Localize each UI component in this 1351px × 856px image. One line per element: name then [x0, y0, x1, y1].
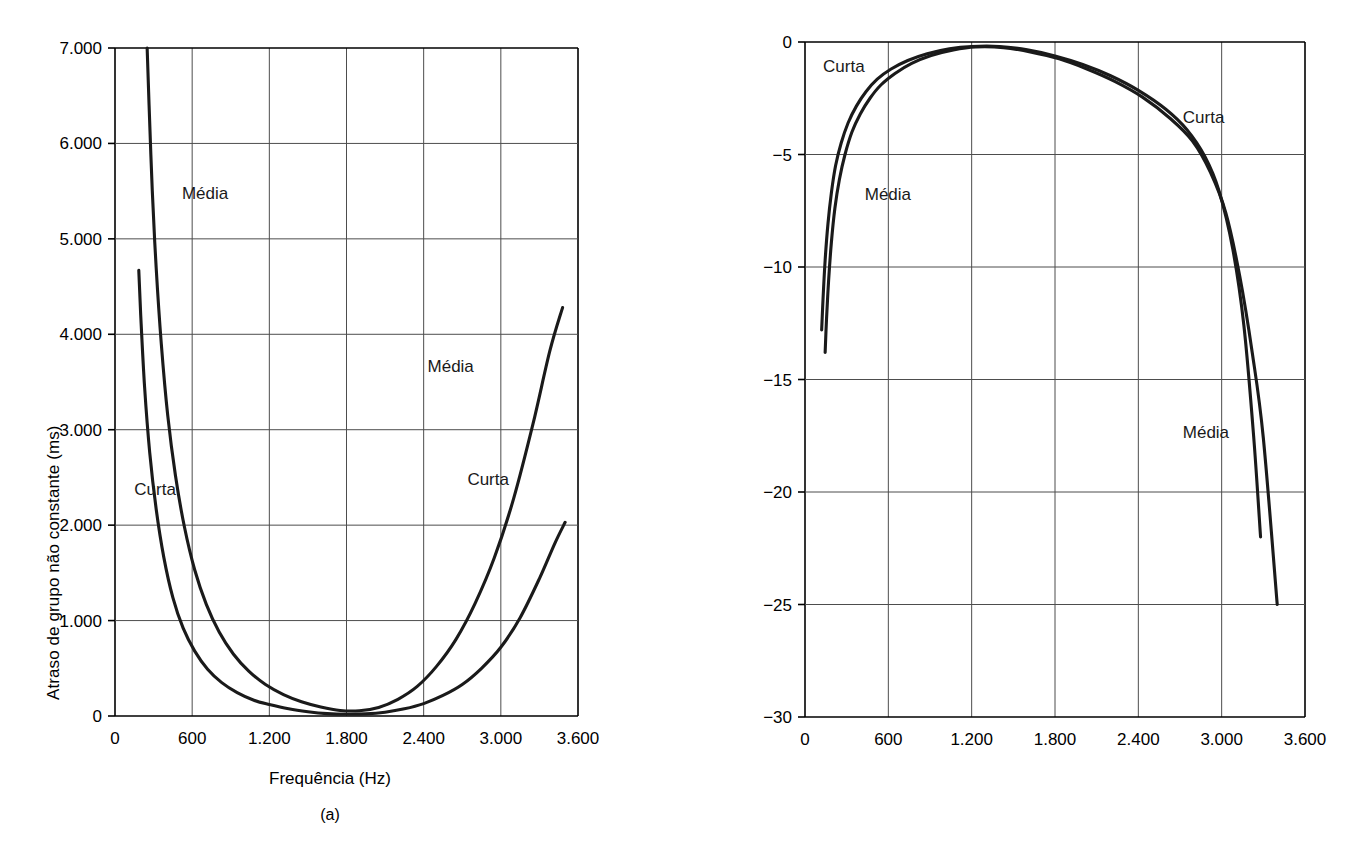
curve-annotation-curta: Curta	[134, 480, 176, 499]
series-curve-mdia	[147, 48, 562, 711]
x-tick-label: 0	[800, 730, 809, 749]
y-axis-label-a-text: Atraso de grupo não constante (ms)	[44, 425, 63, 700]
plot-b-svg: −30−25−20−15−10−5006001.2001.8002.4003.0…	[680, 0, 1351, 800]
y-tick-label: 4.000	[59, 325, 102, 344]
plot-a-svg: 01.0002.0003.0004.0005.0006.0007.0000600…	[0, 0, 680, 800]
x-tick-label: 2.400	[402, 729, 445, 748]
curve-annotation-mdia: Média	[865, 185, 912, 204]
y-tick-label: −25	[763, 596, 792, 615]
y-tick-label: −20	[763, 483, 792, 502]
x-tick-label: 3.600	[1284, 730, 1327, 749]
x-tick-label: 1.800	[1034, 730, 1077, 749]
y-axis-label-a: Atraso de grupo não constante (ms)	[44, 425, 64, 700]
x-axis-label-a: Frequência (Hz)	[0, 769, 660, 789]
y-tick-label: 2.000	[59, 516, 102, 535]
x-tick-label: 3.600	[557, 729, 600, 748]
y-tick-label: −15	[763, 371, 792, 390]
curve-annotation-curta: Curta	[823, 57, 865, 76]
chart-panel-a: 01.0002.0003.0004.0005.0006.0007.0000600…	[0, 0, 680, 856]
y-tick-label: −5	[773, 146, 792, 165]
curve-annotation-mdia: Média	[182, 184, 229, 203]
y-tick-label: 1.000	[59, 612, 102, 631]
figure-container: 01.0002.0003.0004.0005.0006.0007.0000600…	[0, 0, 1351, 856]
figure-caption	[54, 848, 1314, 856]
y-tick-label: 7.000	[59, 39, 102, 58]
y-tick-label: −10	[763, 258, 792, 277]
x-tick-label: 2.400	[1117, 730, 1160, 749]
x-tick-label: 600	[178, 729, 206, 748]
y-tick-label: 6.000	[59, 134, 102, 153]
y-tick-label: 0	[783, 33, 792, 52]
x-tick-label: 0	[110, 729, 119, 748]
curve-annotation-curta: Curta	[1183, 108, 1225, 127]
x-tick-label: 1.200	[950, 730, 993, 749]
x-tick-label: 3.000	[1200, 730, 1243, 749]
y-tick-label: 3.000	[59, 421, 102, 440]
y-tick-label: 5.000	[59, 230, 102, 249]
curve-annotation-mdia: Média	[1183, 423, 1230, 442]
x-tick-label: 1.200	[248, 729, 291, 748]
x-tick-label: 1.800	[325, 729, 368, 748]
subcaption-a: (a)	[0, 806, 660, 824]
y-tick-label: −30	[763, 708, 792, 727]
curve-annotation-curta: Curta	[467, 470, 509, 489]
series-curve-mdia	[825, 47, 1277, 605]
chart-panel-b: −30−25−20−15−10−5006001.2001.8002.4003.0…	[680, 0, 1351, 856]
y-tick-label: 0	[93, 707, 102, 726]
x-tick-label: 3.000	[480, 729, 523, 748]
x-tick-label: 600	[874, 730, 902, 749]
curve-annotation-mdia: Média	[428, 357, 475, 376]
